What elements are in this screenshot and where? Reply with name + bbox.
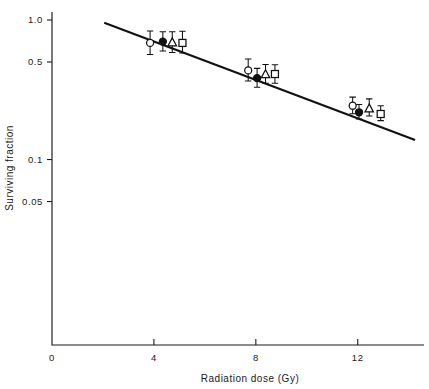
data-point-marker: [377, 110, 384, 117]
axis-lines: [52, 12, 424, 345]
data-series-filled-circle: [159, 32, 362, 119]
data-point-marker: [159, 38, 166, 45]
x-tick-label: 0: [49, 352, 55, 363]
data-point-marker: [147, 39, 154, 46]
data-point-marker: [349, 102, 356, 109]
y-tick-labels: 1.00.50.10.05: [22, 14, 43, 207]
data-series-open-circle: [147, 31, 357, 114]
data-point-marker: [261, 70, 269, 78]
y-tick-label: 1.0: [28, 14, 43, 25]
y-tick-label: 0.1: [28, 154, 43, 165]
data-point-marker: [271, 71, 278, 78]
data-point-marker: [365, 104, 373, 112]
data-point-marker: [168, 38, 176, 46]
x-tick-label: 4: [151, 352, 157, 363]
x-axis-title: Radiation dose (Gy): [201, 373, 299, 384]
y-axis-title: Surviving fraction: [4, 125, 15, 211]
data-point-marker: [245, 67, 252, 74]
x-tick-labels: 04812: [49, 352, 364, 363]
x-tick-label: 12: [352, 352, 364, 363]
y-tick-label: 0.5: [28, 56, 43, 67]
survival-curve-chart: 1.00.50.10.05 04812 Radiation dose (Gy) …: [0, 0, 429, 389]
data-points-layer: [147, 31, 385, 121]
axes: [47, 12, 424, 345]
data-point-marker: [179, 39, 186, 46]
data-point-marker: [355, 109, 362, 116]
x-tick-label: 8: [253, 352, 259, 363]
y-tick-marks: [47, 20, 52, 202]
y-tick-label: 0.05: [22, 196, 43, 207]
x-tick-marks: [154, 339, 358, 345]
data-series-open-triangle: [168, 32, 373, 116]
data-point-marker: [254, 75, 261, 82]
